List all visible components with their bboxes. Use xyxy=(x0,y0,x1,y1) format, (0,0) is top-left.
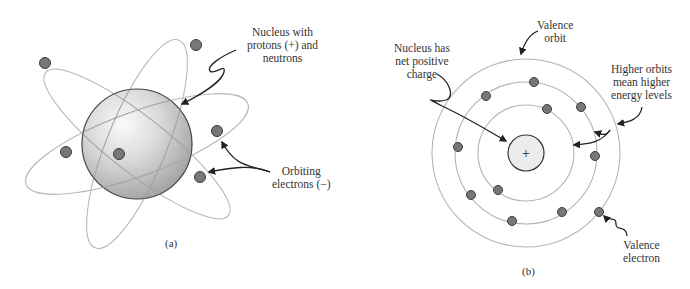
nucleus-sphere xyxy=(82,89,192,199)
electron xyxy=(40,58,51,69)
atom-diagrams: + xyxy=(0,0,690,289)
valence-electron-arrow xyxy=(604,216,627,236)
valence-electron-dot xyxy=(595,208,604,217)
energy-arrow-inner xyxy=(574,130,610,145)
label-line: electrons (−) xyxy=(272,178,331,191)
orbiting-electrons-label: Orbiting electrons (−) xyxy=(272,165,331,191)
label-line: charge xyxy=(394,68,450,81)
panel-a-bohr-3d-model xyxy=(15,29,270,259)
label-line: Valence xyxy=(623,239,660,252)
label-line: electron xyxy=(623,252,660,265)
electron-pointer-arrow-2 xyxy=(209,167,270,172)
valence-orbit-label: Valence orbit xyxy=(537,19,573,45)
valence-orbit-arrow xyxy=(521,31,538,54)
label-line: Valence xyxy=(537,19,573,32)
electron xyxy=(61,147,72,158)
energy-arrow-outer xyxy=(618,107,642,124)
valence-electron-label: Valence electron xyxy=(623,239,660,265)
plus-sign: + xyxy=(522,146,530,161)
electron xyxy=(212,126,223,137)
label-line: Orbiting xyxy=(272,165,331,178)
label-line: neutrons xyxy=(247,52,318,65)
label-line: Higher orbits xyxy=(611,63,672,76)
label-line: energy levels xyxy=(611,89,672,102)
label-line: Nucleus has xyxy=(394,42,450,55)
label-line: orbit xyxy=(537,32,573,45)
nucleus-charge-arrow xyxy=(430,74,506,141)
caption-b: (b) xyxy=(522,265,535,277)
electron xyxy=(114,149,125,160)
label-line: mean higher xyxy=(611,76,672,89)
electron xyxy=(191,40,202,51)
label-line: protons (+) and xyxy=(247,39,318,52)
higher-orbits-label: Higher orbits mean higher energy levels xyxy=(611,63,672,102)
nucleus-with-protons-label: Nucleus with protons (+) and neutrons xyxy=(247,26,318,65)
caption-a: (a) xyxy=(165,237,177,249)
label-line: net positive xyxy=(394,55,450,68)
label-line: Nucleus with xyxy=(247,26,318,39)
electron xyxy=(195,172,206,183)
nucleus-charge-label: Nucleus has net positive charge xyxy=(394,42,450,81)
